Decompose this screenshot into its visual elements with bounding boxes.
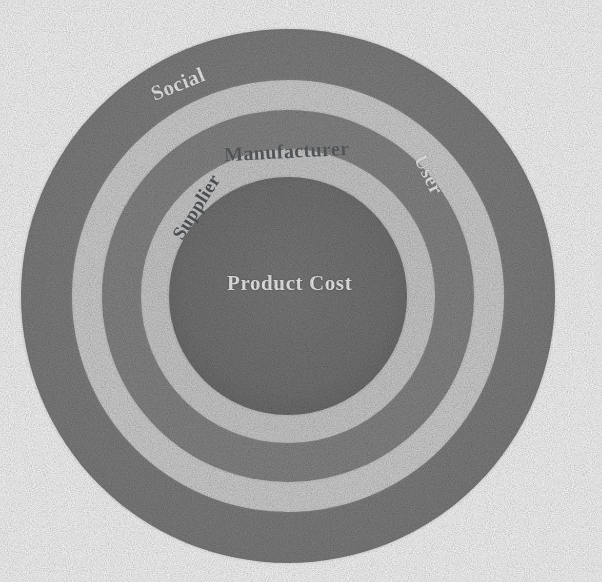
rings-svg: [0, 0, 602, 582]
concentric-ring-diagram: Social User Supplier Manufacturer Produc…: [0, 0, 602, 582]
ring-product-cost-core: [169, 177, 407, 415]
